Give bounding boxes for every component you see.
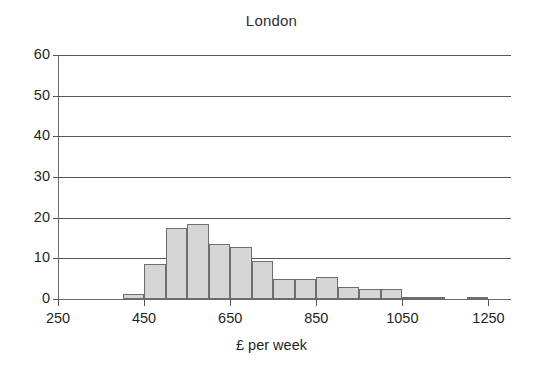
histogram-bar [230,247,252,299]
x-tick-label-850: 850 [304,310,328,326]
histogram-bar [359,289,381,299]
y-tick-label-0: 0 [10,291,50,306]
x-tick-mark-1050 [402,299,403,306]
y-tick-label-60: 60 [10,47,50,62]
x-tick-label-1050: 1050 [386,310,418,326]
x-tick-label-250: 250 [46,310,70,326]
histogram-bar [252,261,274,299]
histogram-bar [381,289,403,299]
histogram-bar [144,264,166,299]
histogram-bar [295,279,317,299]
x-axis-line [58,299,510,300]
x-tick-label-650: 650 [218,310,242,326]
x-tick-mark-250 [58,299,59,306]
x-tick-label-450: 450 [132,310,156,326]
y-axis-tick-labels: 0102030405060 [8,55,50,299]
x-tick-label-1250: 1250 [472,310,504,326]
x-tick-mark-850 [316,299,317,306]
y-tick-label-20: 20 [10,210,50,225]
histogram-bar [273,279,295,299]
x-tick-mark-450 [144,299,145,306]
x-axis-title: £ per week [0,337,543,353]
y-tick-label-30: 30 [10,169,50,184]
histogram-bar [187,224,209,299]
y-tick-label-10: 10 [10,250,50,265]
histogram-bar [338,287,360,299]
histogram-figure: London 0102030405060 2504506508501050125… [0,0,543,383]
chart-title: London [0,12,543,29]
y-tick-label-40: 40 [10,128,50,143]
histogram-bar [316,277,338,299]
x-tick-mark-650 [230,299,231,306]
histogram-bar [166,228,188,299]
bars-container [58,55,510,299]
x-tick-mark-1250 [488,299,489,306]
histogram-bar [209,244,231,299]
y-tick-label-50: 50 [10,88,50,103]
